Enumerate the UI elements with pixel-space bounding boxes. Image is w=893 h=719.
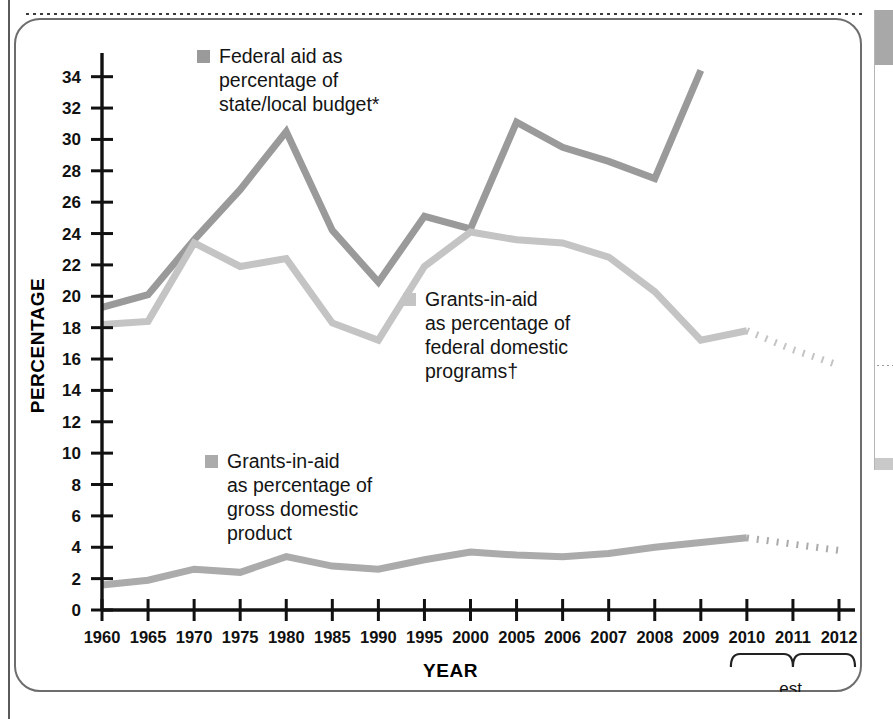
series-estimate-line-grants-gross-domestic-product: [747, 538, 839, 551]
x-tick-label: 2000: [452, 628, 489, 646]
x-tick-label: 1990: [360, 628, 397, 646]
y-tick-label: 20: [62, 287, 81, 306]
x-tick-label: 2005: [498, 628, 535, 646]
y-tick-label: 26: [62, 193, 81, 212]
y-tick-label: 16: [62, 350, 81, 369]
side-panel-header: [875, 10, 893, 65]
y-tick-label: 0: [72, 601, 81, 620]
x-tick-label: 2006: [544, 628, 581, 646]
series-line-federal-aid-state-local: [102, 70, 701, 307]
x-tick-label: 1975: [222, 628, 259, 646]
legend-label: Grants-in-aid as percentage of gross dom…: [227, 449, 372, 545]
estimate-label: est.: [779, 679, 806, 692]
legend-swatch-icon: [197, 50, 210, 63]
x-tick-label: 1995: [406, 628, 443, 646]
y-tick-label: 12: [62, 413, 81, 432]
page-top-dotted-divider: [26, 13, 866, 15]
x-tick-label: 2012: [821, 628, 858, 646]
x-tick-label: 2009: [682, 628, 719, 646]
y-tick-label: 4: [72, 538, 82, 557]
x-tick-label: 2010: [729, 628, 766, 646]
y-tick-label: 2: [72, 570, 81, 589]
y-tick-label: 18: [62, 319, 81, 338]
x-tick-label: 1960: [84, 628, 121, 646]
legend-federal-aid: Federal aid as percentage of state/local…: [197, 44, 379, 116]
x-tick-label: 1985: [314, 628, 351, 646]
x-tick-label: 2011: [775, 628, 811, 646]
y-axis-title: PERCENTAGE: [27, 278, 48, 414]
series-line-grants-gross-domestic-product: [102, 538, 747, 585]
y-tick-label: 14: [62, 381, 81, 400]
x-tick-label: 1965: [130, 628, 167, 646]
legend-gdp: Grants-in-aid as percentage of gross dom…: [205, 449, 372, 545]
page-left-rule: [8, 0, 10, 719]
y-tick-label: 28: [62, 162, 81, 181]
y-tick-label: 30: [62, 130, 81, 149]
x-axis-title: YEAR: [423, 660, 478, 681]
y-tick-label: 32: [62, 99, 81, 118]
y-tick-label: 6: [72, 507, 81, 526]
x-tick-label: 2007: [590, 628, 627, 646]
side-panel-fragment: [874, 10, 892, 470]
estimate-bracket: [731, 654, 855, 667]
x-tick-label: 1980: [268, 628, 305, 646]
side-panel-divider: [877, 365, 893, 366]
legend-swatch-icon: [403, 293, 416, 306]
y-tick-label: 22: [62, 256, 81, 275]
y-tick-label: 24: [62, 225, 81, 244]
y-tick-label: 10: [62, 444, 81, 463]
legend-swatch-icon: [205, 455, 218, 468]
y-tick-label: 8: [72, 476, 81, 495]
x-tick-label: 2008: [636, 628, 673, 646]
legend-label: Grants-in-aid as percentage of federal d…: [425, 287, 570, 383]
series-estimate-line-grants-federal-domestic-programs: [747, 331, 839, 366]
side-panel-footer: [875, 458, 893, 470]
x-tick-label: 1970: [176, 628, 213, 646]
legend-label: Federal aid as percentage of state/local…: [219, 44, 379, 116]
y-tick-label: 34: [62, 68, 81, 87]
legend-federal-programs: Grants-in-aid as percentage of federal d…: [403, 287, 570, 383]
